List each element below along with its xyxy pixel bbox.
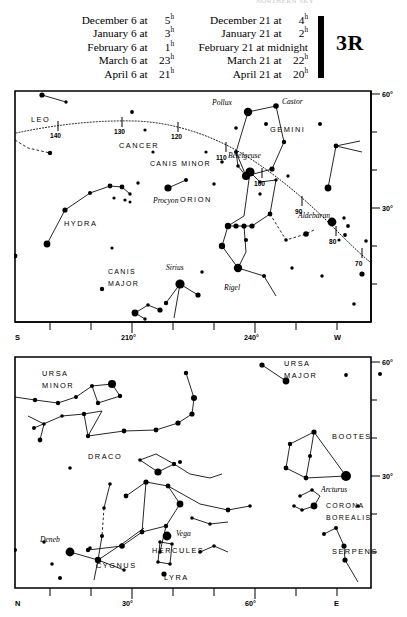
date-label: April 21 at	[233, 68, 282, 80]
label-cygnus: CYGNUS	[96, 561, 137, 570]
star-dot	[204, 150, 207, 153]
label-orion: ORION	[180, 195, 212, 204]
date-label: December 21 at	[210, 14, 282, 26]
date-row: April 6 at 21h	[14, 68, 174, 81]
star-dot	[143, 128, 146, 131]
constellation-hercules	[14, 416, 252, 554]
constellation-canis-minor	[164, 178, 188, 192]
label-canis-minor: CANIS MINOR	[150, 160, 211, 167]
label-arcturus: Arcturus	[320, 485, 347, 494]
sky-chart-south-panel: 60° 30° S 210° 240° W 140 130 120 110 10…	[14, 90, 393, 342]
ecliptic-line	[16, 121, 370, 262]
label-ursa-minor-2: MINOR	[42, 381, 74, 390]
date-time: 2	[284, 27, 304, 40]
north-az-label-e: E	[334, 599, 339, 608]
star-dot	[110, 246, 113, 249]
label-ursa-major-1: URSA	[284, 359, 311, 368]
chart-code-label: 3R	[336, 30, 364, 56]
date-time: 20	[284, 68, 304, 81]
label-castor: Castor	[282, 97, 303, 106]
constellation-fragment-right	[325, 141, 362, 191]
label-bootes: BOOTES	[332, 432, 372, 441]
label-rigel: Rigel	[223, 283, 240, 292]
label-betelgeuse: Betelgeuse	[228, 151, 262, 160]
south-az-label-240: 240°	[244, 333, 259, 342]
label-draco: DRACO	[88, 452, 122, 461]
north-az-ticks	[50, 588, 337, 599]
label-cancer: CANCER	[119, 141, 159, 150]
label-aldebaran: Aldebaran	[297, 211, 330, 220]
label-lyra: LYRA	[164, 573, 189, 582]
date-column-right: December 21 at 4h January 21 at 2h Febru…	[160, 14, 308, 81]
constellation-corona-borealis	[292, 488, 320, 512]
date-label: March 6 at	[99, 54, 148, 66]
north-dec-label-30: 30°	[382, 472, 393, 481]
ecliptic-tick-80: 80	[329, 238, 337, 245]
label-hydra: HYDRA	[64, 219, 97, 228]
south-az-label-w: W	[334, 333, 341, 342]
label-ursa-minor-1: URSA	[42, 369, 69, 378]
south-sky-svg: 60° 30° S 210° 240° W 140 130 120 110 10…	[14, 90, 393, 342]
ecliptic-tick-110: 110	[216, 154, 227, 161]
star-dot	[364, 239, 368, 243]
ecliptic-tick-120: 120	[171, 133, 182, 140]
label-deneb: Deneb	[39, 535, 60, 544]
label-canis-major-2: MAJOR	[108, 280, 139, 287]
sheet-title: NORTHERN SKY	[210, 0, 360, 5]
date-label: February 6 at	[87, 41, 147, 53]
date-row: January 6 at 3h	[14, 27, 174, 40]
date-time: 4	[284, 14, 304, 27]
north-dec-label-60: 60°	[382, 358, 393, 367]
date-label: January 6 at	[93, 27, 148, 39]
star-dot	[212, 182, 215, 185]
ecliptic-tick-140: 140	[50, 132, 61, 139]
date-row: February 21 at midnight	[160, 41, 308, 54]
chart-header: NORTHERN SKY December 6 at 5h January 6 …	[0, 0, 407, 88]
date-time: 22	[284, 54, 304, 67]
star-dot	[344, 373, 348, 377]
star-dot	[359, 271, 364, 276]
date-row: February 6 at 1h	[14, 41, 174, 54]
date-label: December 6 at	[82, 14, 148, 26]
hour-sup: h	[304, 67, 308, 75]
south-dec-ticks	[371, 94, 380, 284]
date-row: April 21 at 20h	[160, 68, 308, 81]
north-sky-svg: 60° 30° N 30° 60° E URSA MINOR URSA MAJO…	[14, 356, 393, 608]
ecliptic-ticks	[58, 117, 362, 258]
date-column-left: December 6 at 5h January 6 at 3h Februar…	[14, 14, 174, 81]
date-label: February 21 at	[198, 41, 264, 53]
label-canis-major-1: CANIS	[108, 268, 136, 275]
misc-stars-right	[68, 460, 228, 554]
date-row: March 6 at 23h	[14, 54, 174, 67]
hour-sup: h	[304, 27, 308, 35]
constellation-ursa-major	[259, 362, 382, 384]
label-corona-2: BOREALIS	[326, 514, 371, 521]
star-dot	[136, 181, 139, 184]
label-sirius: Sirius	[166, 263, 184, 272]
south-az-label-210: 210°	[121, 333, 136, 342]
label-procyon: Procyon	[152, 196, 179, 205]
star-dot	[356, 504, 360, 508]
star-dot	[352, 302, 356, 306]
ecliptic-tick-70: 70	[355, 260, 363, 267]
constellation-fragment-left	[15, 140, 52, 155]
date-row: March 21 at 22h	[160, 54, 308, 67]
star-dot	[151, 150, 154, 153]
label-ursa-major-2: MAJOR	[284, 371, 317, 380]
chart-index-bar	[318, 16, 324, 78]
date-row: January 21 at 2h	[160, 27, 308, 40]
date-time: midnight	[267, 41, 308, 54]
sky-chart-north-panel: 60° 30° N 30° 60° E URSA MINOR URSA MAJO…	[14, 356, 393, 608]
date-label: April 6 at	[104, 68, 147, 80]
label-serpens: SERPENS	[332, 547, 378, 556]
north-az-label-30: 30°	[122, 599, 133, 608]
south-chart-frame	[15, 91, 371, 322]
north-dec-ticks	[371, 362, 380, 552]
ecliptic-tick-130: 130	[114, 128, 125, 135]
date-label: March 21 at	[227, 54, 282, 66]
date-label: January 21 at	[221, 27, 281, 39]
south-dec-label-30: 30°	[382, 204, 393, 213]
label-gemini: GEMINI	[270, 125, 305, 134]
hour-sup: h	[304, 53, 308, 61]
south-az-ticks	[50, 322, 337, 333]
